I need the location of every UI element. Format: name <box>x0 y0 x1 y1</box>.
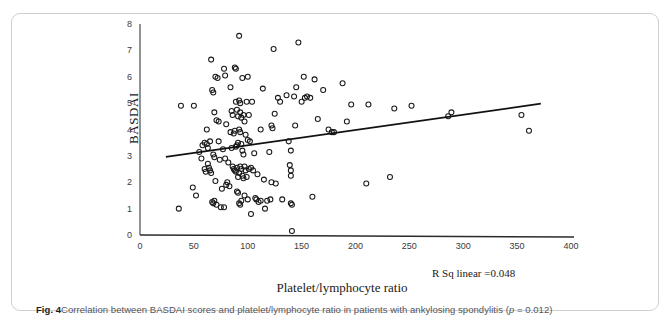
scatter-point <box>178 103 183 108</box>
scatter-point <box>248 211 253 216</box>
scatter-point <box>312 77 317 82</box>
scatter-point <box>244 99 249 104</box>
scatter-point <box>526 128 531 133</box>
scatter-point <box>233 66 238 71</box>
scatter-point <box>242 119 247 124</box>
scatter-point <box>217 157 222 162</box>
scatter-point <box>176 206 181 211</box>
figure-caption: Fig. 4Correlation between BASDAI scores … <box>36 304 656 315</box>
scatter-point <box>199 156 204 161</box>
scatter-point <box>267 149 272 154</box>
y-tick-label: 6 <box>116 72 132 82</box>
scatter-point <box>284 93 289 98</box>
scatter-point <box>315 116 320 121</box>
scatter-point <box>289 202 294 207</box>
scatter-point <box>194 193 199 198</box>
scatter-point <box>326 127 331 132</box>
scatter-point <box>236 190 241 195</box>
y-tick-label: 3 <box>116 151 132 161</box>
y-tick-label: 0 <box>116 230 132 240</box>
figure-number: Fig. 4 <box>36 304 61 315</box>
scatter-point <box>260 86 265 91</box>
scatter-point <box>310 194 315 199</box>
scatter-point <box>289 229 294 234</box>
x-tick-label: 50 <box>179 241 209 251</box>
scatter-point <box>223 73 228 78</box>
caption-p-value: = 0.012) <box>514 304 552 315</box>
scatter-point <box>409 103 414 108</box>
plot-area: BASDAI 050100150200250300350400012345678 <box>12 14 660 284</box>
scatter-point <box>226 160 231 165</box>
caption-body: Correlation between BASDAI scores and pl… <box>61 304 509 315</box>
scatter-point <box>240 76 245 81</box>
x-tick-label: 400 <box>556 241 586 251</box>
scatter-point <box>222 66 227 71</box>
x-tick-label: 350 <box>502 241 532 251</box>
scatter-point <box>280 197 285 202</box>
y-tick-label: 7 <box>116 45 132 55</box>
scatter-point <box>272 111 277 116</box>
scatter-point <box>245 74 250 79</box>
scatter-point <box>250 99 255 104</box>
scatter-point <box>190 185 195 190</box>
scatter-point <box>449 110 454 115</box>
x-tick-label: 150 <box>287 241 317 251</box>
scatter-point <box>191 103 196 108</box>
x-tick-label: 100 <box>233 241 263 251</box>
scatter-point <box>387 174 392 179</box>
scatter-point <box>228 85 233 90</box>
scatter-point <box>234 107 239 112</box>
y-tick-label: 5 <box>116 98 132 108</box>
x-tick-label: 250 <box>394 241 424 251</box>
x-tick-label: 300 <box>448 241 478 251</box>
figure-frame: BASDAI 050100150200250300350400012345678… <box>11 13 659 311</box>
scatter-point <box>222 205 227 210</box>
running-head <box>542 0 662 10</box>
scatter-point <box>364 181 369 186</box>
scatter-point <box>212 110 217 115</box>
scatter-point <box>245 197 250 202</box>
scatter-point <box>287 163 292 168</box>
scatter-point <box>366 102 371 107</box>
scatter-point <box>292 94 297 99</box>
scatter-point <box>209 57 214 62</box>
scatter-point <box>255 172 260 177</box>
y-tick-label: 4 <box>116 125 132 135</box>
scatter-point <box>246 112 251 117</box>
scatter-point <box>261 177 266 182</box>
scatter-point <box>294 85 299 90</box>
scatter-point <box>237 33 242 38</box>
scatter-point <box>262 206 267 211</box>
scatter-point <box>288 148 293 153</box>
scatter-point <box>208 139 213 144</box>
x-tick-label: 0 <box>125 241 155 251</box>
scatter-point <box>271 47 276 52</box>
y-tick-label: 2 <box>116 177 132 187</box>
scatter-point <box>252 151 257 156</box>
y-tick-label: 8 <box>116 19 132 29</box>
scatter-point <box>213 178 218 183</box>
scatter-point <box>349 102 354 107</box>
scatter-point <box>278 99 283 104</box>
scatter-point <box>243 132 248 137</box>
r-squared-annotation: R Sq linear =0.048 <box>432 267 515 279</box>
scatter-point <box>344 119 349 124</box>
scatter-point <box>392 106 397 111</box>
scatter-point <box>288 168 293 173</box>
scatter-point <box>224 122 229 127</box>
scatter-point <box>321 87 326 92</box>
scatter-point <box>216 139 221 144</box>
y-tick-label: 1 <box>116 204 132 214</box>
scatter-point <box>293 123 298 128</box>
scatter-point <box>219 186 224 191</box>
scatter-point <box>288 173 293 178</box>
scatter-point <box>340 81 345 86</box>
scatter-point <box>296 40 301 45</box>
scatter-point <box>258 127 263 132</box>
x-tick-label: 200 <box>341 241 371 251</box>
scatter-point <box>519 112 524 117</box>
regression-line <box>166 104 541 157</box>
scatter-point <box>301 74 306 79</box>
x-axis-label: Platelet/lymphocyte ratio <box>192 280 492 296</box>
scatter-point <box>204 127 209 132</box>
